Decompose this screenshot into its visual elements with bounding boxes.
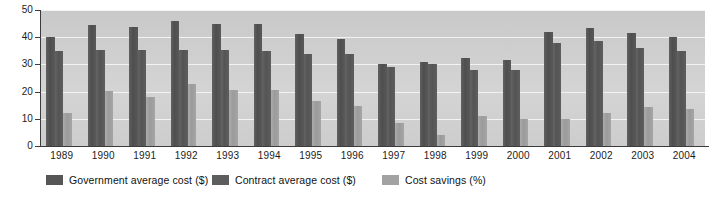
bar [677, 51, 686, 146]
bar [544, 32, 553, 146]
bar-group [254, 10, 280, 146]
x-axis-tick-label: 1990 [83, 150, 125, 162]
bar [179, 50, 188, 146]
x-axis-line [36, 146, 709, 147]
y-axis-tick-label: 30 [5, 59, 33, 69]
bar-group [544, 10, 570, 146]
bar-group [503, 10, 529, 146]
y-axis-tick-label-wrap: 0 [0, 141, 33, 151]
plot-area [41, 10, 705, 146]
x-axis-tick-label: 1993 [207, 150, 249, 162]
bar-group [420, 10, 446, 146]
chart-legend: Government average cost ($)Contract aver… [0, 172, 715, 194]
bar [520, 119, 529, 146]
bar-group [46, 10, 72, 146]
bar [686, 109, 695, 146]
x-axis-tick-label: 1995 [290, 150, 332, 162]
bar [594, 41, 603, 146]
y-axis-tick [35, 37, 40, 38]
y-axis-tick-label-wrap: 40 [0, 32, 33, 42]
bar-group [627, 10, 653, 146]
bar-group [88, 10, 114, 146]
x-axis-tick-label: 2002 [581, 150, 623, 162]
legend-item: Cost savings (%) [382, 172, 486, 188]
x-axis-tick-label: 1992 [166, 150, 208, 162]
legend-label: Contract average cost ($) [235, 174, 356, 186]
bar [138, 50, 147, 146]
bar [387, 67, 396, 146]
bar [586, 28, 595, 146]
bar [561, 119, 570, 146]
bar [312, 101, 321, 146]
bar [129, 27, 138, 146]
x-axis-tick-label: 1999 [456, 150, 498, 162]
x-axis-tick-label: 2004 [664, 150, 706, 162]
x-axis-tick-label: 2003 [622, 150, 664, 162]
y-axis-tick-label: 40 [5, 32, 33, 42]
legend-swatch [46, 175, 63, 185]
y-axis-tick-label-wrap: 20 [0, 87, 33, 97]
legend-label: Cost savings (%) [405, 174, 486, 186]
bar [378, 64, 387, 146]
bar [636, 48, 645, 146]
bar [354, 106, 363, 146]
bar [63, 113, 72, 146]
bar [470, 70, 479, 146]
y-axis-tick-label: 20 [5, 87, 33, 97]
bar-group [295, 10, 321, 146]
x-axis-tick-label: 1996 [332, 150, 374, 162]
y-axis-tick-label: 50 [5, 5, 33, 15]
bar [345, 54, 354, 146]
bar [55, 51, 64, 146]
y-axis-tick-label-wrap: 50 [0, 5, 33, 15]
bar-group [337, 10, 363, 146]
bar [553, 43, 562, 146]
bar-group [212, 10, 238, 146]
bar-group [171, 10, 197, 146]
bar [229, 90, 238, 146]
y-axis-tick [35, 10, 40, 11]
bar [271, 90, 280, 146]
bar [188, 84, 197, 146]
x-axis-tick-label: 2001 [539, 150, 581, 162]
x-axis-tick-label: 1991 [124, 150, 166, 162]
bar [503, 60, 512, 146]
bar [88, 25, 97, 146]
bar [437, 135, 446, 146]
y-axis-tick [35, 92, 40, 93]
legend-swatch [382, 175, 399, 185]
y-axis-tick-label-wrap: 10 [0, 114, 33, 124]
bar [221, 50, 230, 146]
bar [146, 97, 155, 147]
bar [428, 64, 437, 146]
legend-item: Government average cost ($) [46, 172, 208, 188]
y-axis-tick-label: 0 [5, 141, 33, 151]
bar [212, 24, 221, 146]
y-axis-tick [35, 146, 40, 147]
y-axis-line [40, 10, 41, 147]
legend-label: Government average cost ($) [69, 174, 208, 186]
bar [511, 70, 520, 146]
bar [105, 91, 114, 146]
bar [461, 58, 470, 146]
bar [46, 37, 55, 146]
x-axis-tick-label: 1998 [415, 150, 457, 162]
bar [669, 37, 678, 146]
bar-group [378, 10, 404, 146]
bar-group [129, 10, 155, 146]
x-axis-tick-label: 1994 [249, 150, 291, 162]
y-axis-tick-label: 10 [5, 114, 33, 124]
bar-group [669, 10, 695, 146]
legend-item: Contract average cost ($) [212, 172, 356, 188]
bar [304, 54, 313, 146]
bar [478, 116, 487, 146]
y-axis-tick [35, 64, 40, 65]
bar [395, 123, 404, 146]
bar [627, 33, 636, 146]
x-axis-tick-label: 1989 [41, 150, 83, 162]
x-axis-tick-label: 2000 [498, 150, 540, 162]
bar [295, 34, 304, 146]
bar [96, 50, 105, 146]
bar [337, 39, 346, 146]
bar [262, 51, 271, 146]
